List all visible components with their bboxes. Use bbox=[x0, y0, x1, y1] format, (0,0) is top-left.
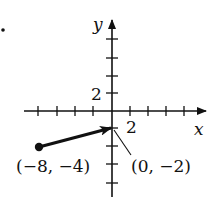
y-axis-label: y bbox=[92, 14, 103, 34]
point-label-end: (0, −2) bbox=[131, 156, 191, 176]
point-label-start: (−8, −4) bbox=[16, 156, 90, 176]
x-tick-label-2: 2 bbox=[126, 117, 137, 137]
bullet-dot bbox=[1, 28, 5, 32]
coordinate-plane: y x 2 2 (−8, −4) (0, −2) bbox=[0, 0, 214, 199]
start-point-dot bbox=[35, 143, 43, 151]
x-axis bbox=[24, 106, 206, 116]
y-axis bbox=[106, 20, 118, 197]
vector-arrow bbox=[35, 128, 111, 151]
y-tick-label-2: 2 bbox=[91, 84, 102, 104]
x-axis-label: x bbox=[194, 119, 204, 139]
